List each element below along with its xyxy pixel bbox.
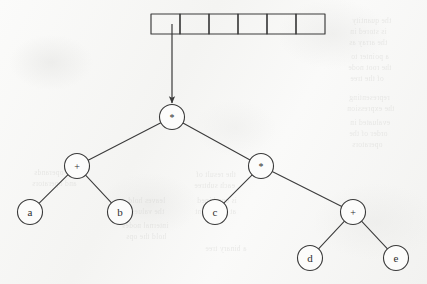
tree-node-label: e [394,252,399,264]
tree-node-label: a [28,206,33,218]
tree-edge [362,221,388,249]
array-cell[interactable] [209,14,238,34]
tree-edge [183,123,250,160]
tree-node-leaf-a[interactable]: a [18,200,43,225]
tree-node-label: + [74,161,80,172]
tree-node-label: * [170,112,175,123]
tree-node-root[interactable]: * [160,105,185,130]
tree-edge [224,175,252,203]
expression-tree-figure: the quantityis stored inthe array asa po… [0,0,427,284]
array-cell[interactable] [180,14,209,34]
tree-edge [86,175,112,203]
array-cell[interactable] [238,14,267,34]
array-cell[interactable] [267,14,296,34]
tree-node-leaf-e[interactable]: e [384,246,409,271]
tree-node-n-plus-ab[interactable]: + [65,154,90,179]
tree-node-label: c [213,206,218,218]
array-cell[interactable] [151,14,180,34]
tree-edge [319,221,345,249]
tree-node-leaf-c[interactable]: c [203,200,228,225]
tree-node-label: + [350,207,356,218]
tree-nodes: *+*abc+de [18,105,409,271]
tree-edges [39,123,388,249]
tree-node-label: b [117,206,123,218]
tree-node-n-mult-r[interactable]: * [249,154,274,179]
array-cell[interactable] [296,14,325,34]
tree-node-leaf-d[interactable]: d [298,246,323,271]
tree-edge [39,175,68,204]
tree-node-n-plus-de[interactable]: + [341,200,366,225]
diagram-canvas: *+*abc+de [0,0,427,284]
tree-node-leaf-b[interactable]: b [108,200,133,225]
tree-node-label: d [307,252,313,264]
tree-edge [88,123,161,161]
cell-array [151,14,325,34]
tree-node-label: * [259,161,264,172]
tree-edge [272,172,342,207]
